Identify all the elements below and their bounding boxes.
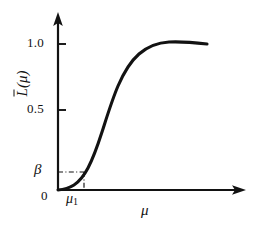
origin-label: 0: [41, 189, 48, 202]
y-axis: [53, 12, 63, 190]
x-axis-title: μ: [141, 203, 149, 218]
y-axis-ticks: [58, 44, 66, 110]
y-axis-title: L(μ): [15, 56, 30, 112]
y-tick-label-1.0: 1.0: [27, 36, 44, 49]
y-tick-label-0.5: 0.5: [27, 102, 44, 115]
data-curve: [58, 42, 207, 190]
y-axis-title-arg: (μ): [14, 71, 30, 89]
x-axis: [57, 185, 246, 195]
y-axis-title-lbar: L: [15, 88, 30, 96]
x-tick-mu1-subscript: 1: [73, 196, 78, 207]
x-tick-label-mu1: μ1: [66, 192, 78, 207]
figure-container: 1.0 0.5 β 0 μ1 μ L(μ): [0, 0, 265, 228]
x-tick-mu1-base: μ: [66, 191, 73, 206]
y-tick-label-beta: β: [34, 162, 41, 177]
